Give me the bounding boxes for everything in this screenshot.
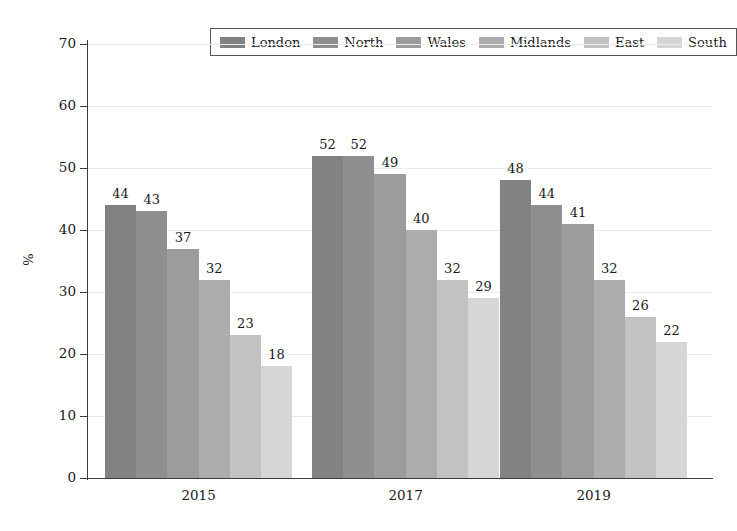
y-tick-label: 10: [34, 409, 76, 423]
bar-value-label: 37: [163, 231, 202, 244]
y-tick-label: 0: [34, 471, 76, 485]
x-tick-label-2019: 2019: [500, 489, 687, 503]
bar-north-2017: [343, 156, 374, 478]
bar-value-label: 18: [257, 348, 296, 361]
bar-value-label: 26: [621, 299, 660, 312]
bar-value-label: 22: [652, 324, 691, 337]
y-tick-label: 50: [34, 161, 76, 175]
bar-midlands-2015: [199, 280, 230, 478]
bar-south-2019: [656, 342, 687, 478]
bar-value-label: 23: [226, 317, 265, 330]
y-tick-label: 60: [34, 99, 76, 113]
bar-value-label: 48: [496, 162, 535, 175]
gridline: [88, 106, 712, 107]
bar-value-label: 44: [527, 187, 566, 200]
bar-north-2015: [136, 211, 167, 478]
bar-value-label: 32: [590, 262, 629, 275]
bar-value-label: 52: [339, 138, 378, 151]
bar-chart: LondonNorthWalesMidlandsEastSouth % 0102…: [0, 0, 737, 531]
plot-area: 444337322318525249403229484441322622: [88, 44, 712, 478]
bar-south-2017: [468, 298, 499, 478]
gridline: [88, 44, 712, 45]
bar-value-label: 49: [370, 156, 409, 169]
x-tick-label-2015: 2015: [105, 489, 292, 503]
bar-north-2019: [531, 205, 562, 478]
bar-value-label: 41: [558, 206, 597, 219]
bar-value-label: 43: [132, 193, 171, 206]
y-tick-label: 30: [34, 285, 76, 299]
bar-south-2015: [261, 366, 292, 478]
y-tick-mark: [80, 292, 88, 293]
bar-london-2017: [312, 156, 343, 478]
y-tick-mark: [80, 416, 88, 417]
y-tick-label: 70: [34, 37, 76, 51]
y-tick-mark: [80, 230, 88, 231]
y-tick-mark: [80, 44, 88, 45]
bar-east-2019: [625, 317, 656, 478]
bar-east-2017: [437, 280, 468, 478]
y-tick-label: 40: [34, 223, 76, 237]
y-tick-mark: [80, 478, 88, 479]
bar-value-label: 32: [195, 262, 234, 275]
y-tick-mark: [80, 168, 88, 169]
bar-value-label: 29: [464, 280, 503, 293]
bar-wales-2015: [167, 249, 198, 478]
y-axis-label: %: [21, 253, 36, 265]
y-tick-mark: [80, 106, 88, 107]
y-tick-label: 20: [34, 347, 76, 361]
y-tick-mark: [80, 354, 88, 355]
bar-value-label: 32: [433, 262, 472, 275]
bar-london-2019: [500, 180, 531, 478]
x-axis-line: [87, 478, 713, 479]
bar-london-2015: [105, 205, 136, 478]
x-tick-label-2017: 2017: [312, 489, 499, 503]
bar-value-label: 40: [402, 212, 441, 225]
